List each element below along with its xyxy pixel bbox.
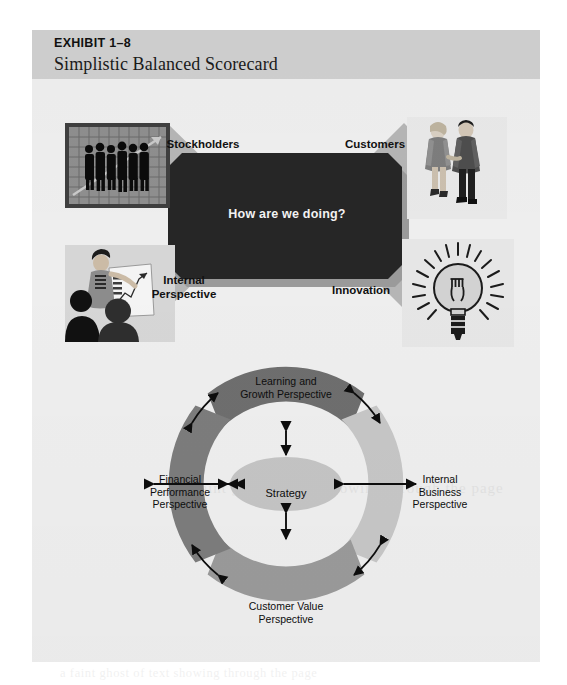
label-customers: Customers: [320, 137, 430, 151]
exhibit-panel: a faint ghost of text showing through th…: [32, 30, 540, 662]
center-box-question: How are we doing?: [207, 207, 367, 221]
arc-label-learning-growth: Learning and Growth Perspective: [222, 375, 350, 400]
strategy-label: Strategy: [244, 487, 328, 500]
arc-customer-value: [208, 540, 365, 602]
customers-photo: [407, 117, 507, 219]
bleed-through-text: a faint ghost of text showing through th…: [60, 666, 510, 682]
arc-label-internal-business: Internal Business Perspective: [392, 473, 488, 511]
exhibit-header: EXHIBIT 1–8 Simplistic Balanced Scorecar…: [32, 30, 540, 79]
strategy-ellipse: [230, 457, 342, 511]
exhibit-number: EXHIBIT 1–8: [54, 36, 540, 51]
arc-label-financial-performance: Financial Performance Perspective: [128, 473, 232, 511]
label-innovation: Innovation: [332, 283, 432, 297]
exhibit-title: Simplistic Balanced Scorecard: [54, 52, 540, 76]
label-internal-perspective: Internal Perspective: [124, 273, 244, 301]
arc-label-customer-value: Customer Value Perspective: [222, 600, 350, 625]
stockholders-photo: [65, 123, 170, 208]
top-diagram: Stockholders Customers Internal Perspect…: [32, 79, 540, 356]
label-stockholders: Stockholders: [148, 137, 258, 151]
page-canvas: a faint ghost of text showing through th…: [0, 0, 567, 685]
balanced-scorecard-circle-diagram: Learning and Growth Perspective Internal…: [32, 330, 540, 662]
